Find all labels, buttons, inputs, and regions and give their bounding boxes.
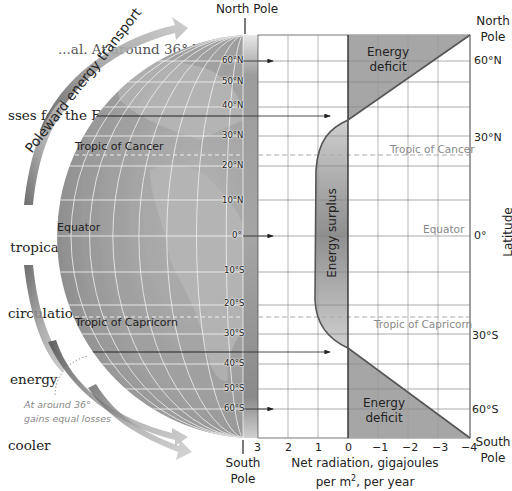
- chart-south-pole-label: South Pole: [472, 434, 512, 466]
- x-axis-label: Net radiation, gigajoules per m2, per ye…: [280, 455, 450, 490]
- deficit-north-label: Energy deficit: [358, 45, 418, 75]
- deficit-south-label: Energy deficit: [354, 396, 414, 426]
- x-tick: 3: [254, 441, 261, 454]
- north-pole-label: North Pole: [202, 1, 292, 17]
- lat-label: 30°N: [222, 130, 243, 140]
- lat-label: 60°S: [224, 403, 244, 413]
- right-lat-label: 0°: [474, 229, 487, 242]
- balance-annotation: At around 36° gains equal losses: [24, 398, 111, 426]
- x-tick: −2: [402, 441, 418, 454]
- lat-label: 50°N: [222, 76, 243, 86]
- tropic-cancer-chart-label: Tropic of Cancer: [390, 143, 475, 155]
- lat-label: 50°S: [224, 383, 244, 393]
- lat-label: 10°N: [222, 195, 243, 205]
- lat-label: 40°S: [224, 358, 244, 368]
- tropic-capricorn-chart-label: Tropic of Capricorn: [374, 318, 472, 330]
- right-lat-label: 60°S: [472, 403, 498, 416]
- x-tick: −3: [432, 441, 448, 454]
- equator-chart-label: Equator: [423, 223, 464, 235]
- equator-globe-label: Equator: [57, 221, 100, 234]
- lat-label: 60°N: [222, 55, 243, 65]
- x-tick: 2: [285, 441, 292, 454]
- surplus-label: Energy surplus: [325, 183, 339, 283]
- lat-label: 40°N: [222, 100, 243, 110]
- chart-north-pole-label: North Pole: [472, 13, 512, 45]
- south-pole-label: South Pole: [213, 455, 273, 487]
- right-lat-label: 30°N: [474, 131, 502, 144]
- x-tick: 1: [315, 441, 322, 454]
- x-tick: 0: [345, 441, 352, 454]
- lat-label: 30°S: [224, 328, 244, 338]
- lat-label: 10°S: [224, 265, 244, 275]
- globe-strip: [243, 35, 258, 438]
- lat-label: 20°S: [224, 298, 244, 308]
- x-tick: −1: [372, 441, 388, 454]
- tropic-cancer-globe-label: Tropic of Cancer: [75, 140, 164, 153]
- right-lat-label: 60°N: [474, 54, 502, 67]
- x-tick: −4: [461, 441, 477, 454]
- tropic-capricorn-globe-label: Tropic of Capricorn: [75, 316, 178, 329]
- lat-label: 20°N: [222, 160, 243, 170]
- lat-label: 0°: [232, 230, 242, 240]
- y-axis-label: Latitude: [501, 202, 512, 262]
- right-lat-label: 30°S: [472, 329, 498, 342]
